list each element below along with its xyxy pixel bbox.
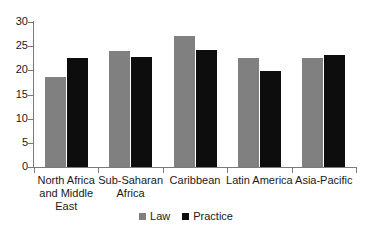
plot-area — [34, 22, 356, 167]
bar-law-2 — [174, 36, 195, 167]
x-axis-separator — [356, 168, 357, 173]
x-axis-separator — [163, 168, 164, 173]
legend-label: Practice — [193, 211, 233, 222]
bar-practice-3 — [260, 71, 281, 167]
y-axis-tick-label: 10 — [2, 113, 28, 124]
bar-practice-2 — [196, 50, 217, 167]
x-axis-label-line: Africa — [92, 187, 168, 200]
bar-law-3 — [238, 58, 259, 167]
legend-label: Law — [150, 211, 170, 222]
bar-practice-1 — [131, 57, 152, 167]
y-axis-tick-label: 25 — [2, 40, 28, 51]
x-axis-label-line: Asia-Pacific — [286, 174, 362, 187]
x-axis-line — [33, 167, 357, 168]
legend-item-practice[interactable]: Practice — [182, 211, 233, 222]
bar-law-0 — [45, 77, 66, 167]
chart-legend: LawPractice — [0, 211, 372, 222]
x-axis-label-4: Asia-Pacific — [286, 174, 362, 187]
bar-practice-0 — [67, 58, 88, 167]
x-axis-separator — [98, 168, 99, 173]
bar-practice-4 — [324, 55, 345, 167]
x-axis-separator — [227, 168, 228, 173]
legend-swatch-icon — [182, 213, 189, 220]
y-axis-tick-label: 0 — [2, 161, 28, 172]
legend-swatch-icon — [139, 213, 146, 220]
bar-chart: 302520151050 North Africaand MiddleEastS… — [0, 0, 372, 233]
bar-law-1 — [109, 51, 130, 167]
x-axis-separator — [292, 168, 293, 173]
legend-item-law[interactable]: Law — [139, 211, 170, 222]
y-axis-tick-label: 30 — [2, 16, 28, 27]
x-axis-separator — [34, 168, 35, 173]
y-axis-tick-label: 5 — [2, 137, 28, 148]
y-axis-tick-label: 15 — [2, 89, 28, 100]
bar-law-4 — [302, 58, 323, 167]
y-axis-tick-label: 20 — [2, 64, 28, 75]
